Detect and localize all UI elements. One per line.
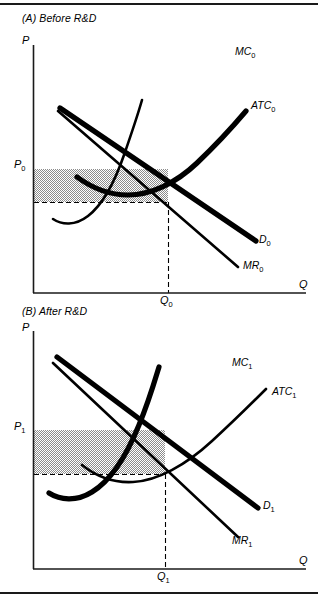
- curve-label-demand-a: D0: [259, 233, 271, 248]
- curve-label-mc-b: MC1: [232, 356, 253, 371]
- top-divider-rule: [0, 3, 318, 5]
- panel-before-rd: (A) Before R&D: [0, 12, 318, 297]
- price-tick-label-b: P1: [14, 420, 26, 435]
- curve-label-mc-a: MC0: [235, 45, 256, 60]
- figure-container: (A) Before R&D: [0, 0, 318, 605]
- curve-label-atc-b: ATC1: [272, 385, 296, 400]
- panel-a-plot: [0, 12, 318, 297]
- curve-label-marginal-revenue-b: MR1: [232, 534, 253, 549]
- bottom-divider-rule: [0, 592, 318, 594]
- panel-after-rd: (B) After R&D: [0, 305, 318, 590]
- x-axis-label-b: Q: [299, 554, 308, 566]
- curve-label-marginal-revenue-a: MR0: [243, 259, 264, 274]
- price-tick-label-a: P0: [14, 158, 26, 173]
- x-axis-label-a: Q: [299, 278, 308, 290]
- curve-label-demand-b: D1: [263, 499, 275, 514]
- quantity-tick-label-b: Q1: [157, 570, 170, 585]
- profit-rectangle-b: [34, 430, 165, 474]
- y-axis-label-a: P: [22, 34, 29, 46]
- panel-b-plot: [0, 305, 318, 590]
- y-axis-label-b: P: [22, 321, 29, 333]
- curve-label-atc-a: ATC0: [251, 99, 275, 114]
- profit-rectangle-a: [34, 169, 168, 202]
